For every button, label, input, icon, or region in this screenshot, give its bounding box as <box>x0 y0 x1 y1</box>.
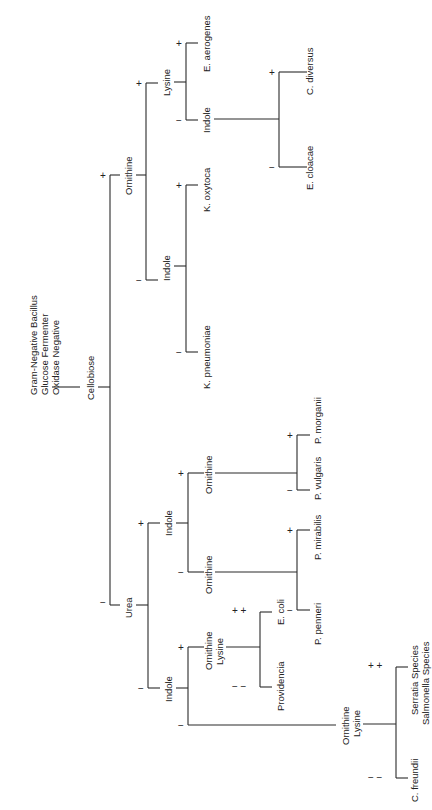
sign-minus: − <box>138 683 144 694</box>
sign-plus: + <box>136 78 142 89</box>
leaf-serratia: Serratia Species <box>409 645 420 715</box>
node-lysine: Lysine <box>214 638 225 665</box>
root-label: Gram-Negative Bacillus Glucose Fermenter… <box>28 295 61 395</box>
leaf-e-coli: E. coli <box>275 599 286 625</box>
leaf-salmonella: Salmonella Species <box>420 641 431 725</box>
root-label-line-1: Gram-Negative Bacillus <box>28 295 39 395</box>
node-ornithine: Ornithine <box>203 631 214 670</box>
sign-plus: + <box>287 525 293 536</box>
node-ornithine: Ornithine <box>203 555 214 594</box>
leaf-e-cloacae: E. cloacae <box>304 146 315 190</box>
leaf-e-aerogenes: E. aerogenes <box>201 15 212 72</box>
sign-minus: − <box>178 720 184 731</box>
sign-plus: + <box>269 67 275 78</box>
sign-minus: − <box>100 597 106 608</box>
node-urea: Urea <box>123 597 134 618</box>
sign-plus: + <box>100 170 106 181</box>
leaf-c-freundii: C. freundii <box>409 759 420 802</box>
leaf-providencia: Providencia <box>275 661 286 711</box>
sign-minus: − <box>287 605 293 616</box>
node-lysine: Lysine <box>161 69 172 96</box>
leaf-k-oxytoca: K. oxytoca <box>201 167 212 212</box>
sign-minus: − <box>287 485 293 496</box>
leaf-p-vulgaris: P. vulgaris <box>312 457 323 500</box>
node-ornithine: Ornithine <box>123 156 134 195</box>
node-indole: Indole <box>161 255 172 281</box>
sign-plus-plus: + + <box>232 605 247 616</box>
sign-minus: − <box>269 162 275 173</box>
sign-plus: + <box>178 468 184 479</box>
node-ornithine: Ornithine <box>203 455 214 494</box>
sign-minus: − <box>176 347 182 358</box>
leaf-p-penneri: P. penneri <box>312 603 323 645</box>
sign-plus: + <box>287 430 293 441</box>
root-label-line-3: Oxidase Negative <box>50 320 61 395</box>
node-indole: Indole <box>163 510 174 536</box>
leaf-c-diversus: C. diversus <box>304 47 315 95</box>
node-indole: Indole <box>163 676 174 702</box>
root-label-line-2: Glucose Fermenter <box>39 314 50 395</box>
sign-plus: + <box>178 642 184 653</box>
identification-key-diagram: Gram-Negative Bacillus Glucose Fermenter… <box>0 0 432 810</box>
sign-minus-minus: − − <box>368 772 383 783</box>
sign-plus: + <box>176 180 182 191</box>
sign-plus: + <box>176 38 182 49</box>
sign-minus: − <box>178 567 184 578</box>
sign-plus-plus: + + <box>368 660 383 671</box>
node-cellobiose: Cellobiose <box>85 356 96 400</box>
sign-plus: + <box>138 518 144 529</box>
sign-minus-minus: − − <box>232 681 247 692</box>
node-indole: Indole <box>201 107 212 133</box>
node-ornithine: Ornithine <box>340 706 351 745</box>
sign-minus: − <box>176 115 182 126</box>
leaf-k-pneumoniae: K. pneumoniae <box>201 325 212 389</box>
sign-minus: − <box>136 275 142 286</box>
node-lysine: Lysine <box>351 710 362 737</box>
leaf-p-morganii: P. morganii <box>312 397 323 444</box>
leaf-p-mirabilis: P. mirabilis <box>312 515 323 560</box>
